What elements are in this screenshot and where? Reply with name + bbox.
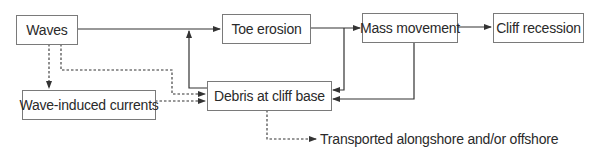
node-wave-induced-currents: Wave-induced currents bbox=[22, 90, 156, 120]
transported-label: Transported alongshore and/or offshore bbox=[320, 131, 558, 147]
edge-mass-movement-debris bbox=[333, 42, 414, 99]
node-toe-erosion: Toe erosion bbox=[222, 14, 311, 44]
node-cliff-recession-label: Cliff recession bbox=[496, 20, 581, 36]
node-mass-movement: Mass movement bbox=[362, 13, 458, 43]
node-toe-erosion-label: Toe erosion bbox=[231, 21, 301, 37]
node-wave-induced-currents-label: Wave-induced currents bbox=[19, 97, 158, 113]
node-debris-label: Debris at cliff base bbox=[214, 88, 325, 104]
edge-debris-toe-erosion bbox=[189, 31, 207, 88]
node-waves: Waves bbox=[16, 15, 78, 45]
edge-toe-erosion-debris bbox=[333, 28, 344, 90]
node-waves-label: Waves bbox=[26, 22, 67, 38]
edge-debris-transported bbox=[267, 110, 316, 139]
node-debris-at-cliff-base: Debris at cliff base bbox=[207, 81, 332, 111]
node-cliff-recession: Cliff recession bbox=[493, 13, 584, 43]
edge-waves-debris bbox=[61, 44, 205, 94]
node-mass-movement-label: Mass movement bbox=[360, 20, 460, 36]
